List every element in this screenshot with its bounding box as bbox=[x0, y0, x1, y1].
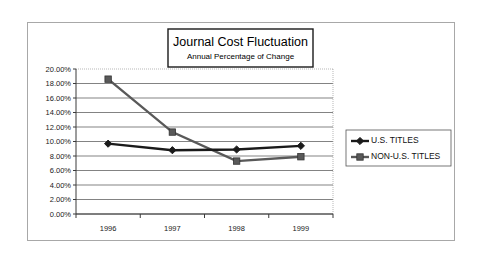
chart-subtitle: Annual Percentage of Change bbox=[187, 52, 295, 61]
data-series bbox=[105, 76, 305, 164]
x-tick-label: 1997 bbox=[164, 224, 181, 233]
data-point-marker-diamond bbox=[233, 146, 240, 153]
gridlines bbox=[76, 69, 333, 214]
y-tick-label: 8.00% bbox=[50, 152, 72, 161]
journal-cost-fluctuation-chart: 20.00%18.00%16.00%14.00%12.00%10.00%8.00… bbox=[28, 23, 456, 242]
y-tick-label: 4.00% bbox=[50, 181, 72, 190]
legend-item-label: U.S. TITLES bbox=[371, 135, 419, 145]
y-tick-label: 2.00% bbox=[50, 195, 72, 204]
y-tick-label: 10.00% bbox=[46, 137, 72, 146]
data-point-marker-square bbox=[298, 154, 304, 160]
chart-frame: 20.00%18.00%16.00%14.00%12.00%10.00%8.00… bbox=[27, 22, 455, 241]
y-tick-label: 18.00% bbox=[46, 79, 72, 88]
y-tick-label: 12.00% bbox=[46, 123, 72, 132]
data-point-marker-diamond bbox=[169, 147, 176, 154]
y-tick-label: 6.00% bbox=[50, 166, 72, 175]
data-point-marker-diamond bbox=[297, 142, 304, 149]
chart-legend: U.S. TITLESNON-U.S. TITLES bbox=[346, 130, 451, 166]
data-point-marker-square bbox=[233, 158, 239, 164]
data-point-marker-square bbox=[169, 129, 175, 135]
x-tick-label: 1998 bbox=[228, 224, 245, 233]
y-tick-label: 16.00% bbox=[46, 94, 72, 103]
chart-title: Journal Cost Fluctuation bbox=[173, 35, 308, 49]
y-axis-tick-labels: 20.00%18.00%16.00%14.00%12.00%10.00%8.00… bbox=[46, 65, 76, 219]
y-tick-label: 20.00% bbox=[46, 65, 72, 74]
y-tick-label: 14.00% bbox=[46, 108, 72, 117]
x-tick-label: 1996 bbox=[100, 224, 117, 233]
x-tick-label: 1999 bbox=[293, 224, 310, 233]
chart-title-box: Journal Cost FluctuationAnnual Percentag… bbox=[168, 29, 313, 67]
x-axis-tick-labels: 1996199719981999 bbox=[76, 214, 333, 233]
legend-item-label: NON-U.S. TITLES bbox=[371, 151, 441, 161]
data-point-marker-square bbox=[357, 154, 363, 160]
y-tick-label: 0.00% bbox=[50, 210, 72, 219]
data-point-marker-square bbox=[105, 76, 111, 82]
